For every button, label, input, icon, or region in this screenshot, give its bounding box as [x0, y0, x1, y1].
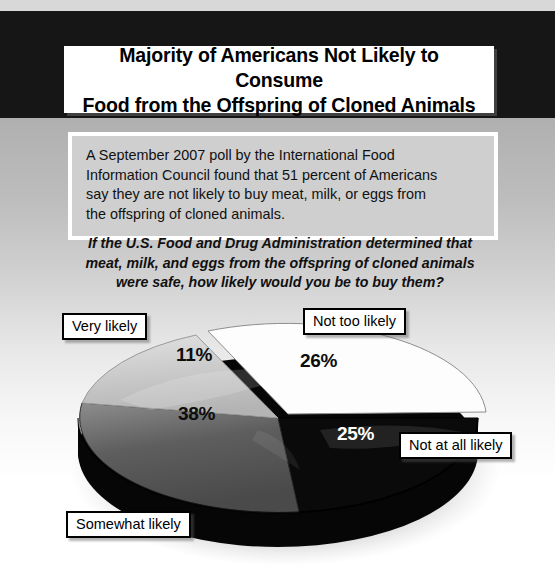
pie-label-very-likely: Very likely [62, 313, 147, 340]
pie-value-very-likely: 11% [176, 344, 212, 366]
pie-value-not-at-all-likely: 25% [337, 423, 374, 445]
pie-chart: 11% 26% 38% 25% Very likely Not too like… [0, 0, 555, 573]
pie-value-somewhat-likely: 38% [178, 403, 215, 425]
pie-label-not-at-all-likely: Not at all likely [399, 432, 512, 459]
pie-value-not-too-likely: 26% [300, 350, 337, 372]
pie-label-not-too-likely: Not too likely [303, 308, 406, 335]
infographic-root: Majority of Americans Not Likely to Cons… [0, 0, 555, 573]
pie-chart-svg [0, 0, 555, 573]
pie-label-somewhat-likely: Somewhat likely [66, 511, 191, 538]
